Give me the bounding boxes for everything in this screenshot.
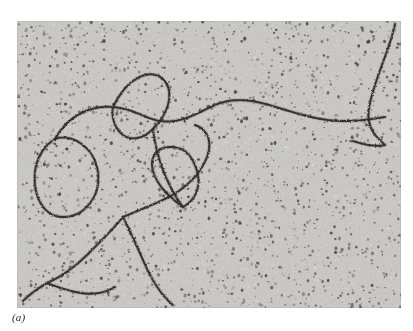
figure-part-label: (a)	[12, 310, 25, 324]
electron-micrograph-image	[17, 21, 401, 308]
micrograph-canvas	[17, 21, 401, 308]
figure-root: (a)	[0, 0, 413, 331]
